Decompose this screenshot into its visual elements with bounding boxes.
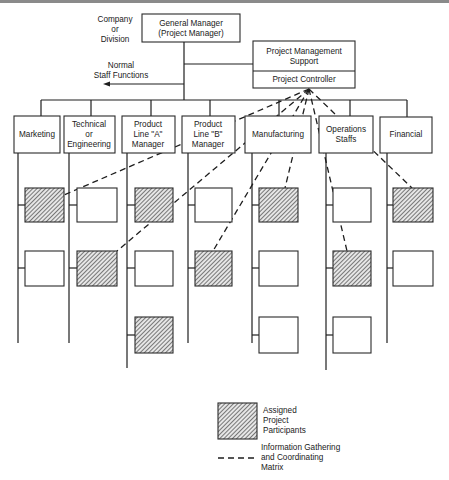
- legend: Assigned Project Participants Informatio…: [218, 403, 341, 472]
- participant-assigned: [393, 188, 433, 222]
- participant-unassigned: [333, 188, 371, 222]
- svg-text:Staffs: Staffs: [336, 135, 357, 144]
- dept-product-line-a: Product Line "A" Manager: [122, 116, 175, 153]
- svg-text:Staff Functions: Staff Functions: [94, 71, 148, 80]
- svg-text:Technical: Technical: [72, 120, 106, 129]
- participant-unassigned: [333, 317, 371, 353]
- dept-product-line-b: Product Line "B" Manager: [182, 116, 235, 153]
- participant-assigned: [135, 188, 173, 222]
- project-controller-label: Project Controller: [272, 75, 336, 84]
- participant-unassigned: [259, 251, 298, 286]
- participant-unassigned: [393, 251, 433, 286]
- dept-marketing: Marketing: [14, 116, 60, 153]
- svg-text:Line "A": Line "A": [133, 130, 162, 139]
- dept-technical-engineering: Technical or Engineering: [64, 116, 115, 153]
- participant-assigned: [25, 188, 64, 222]
- svg-text:Engineering: Engineering: [67, 140, 111, 149]
- svg-text:Normal: Normal: [108, 61, 135, 70]
- svg-text:Support: Support: [290, 57, 319, 66]
- svg-text:Operations: Operations: [326, 125, 366, 134]
- participant-assigned: [333, 251, 371, 286]
- svg-text:or: or: [85, 130, 93, 139]
- participant-assigned: [77, 251, 117, 286]
- dept-manufacturing: Manufacturing: [245, 116, 311, 153]
- participant-unassigned: [135, 251, 173, 286]
- participant-boxes: [18, 188, 433, 353]
- org-chart-diagram: Company or Division General Manager (Pro…: [0, 0, 449, 480]
- svg-text:or: or: [111, 25, 119, 34]
- participant-assigned: [259, 188, 298, 222]
- svg-text:Project: Project: [263, 416, 289, 425]
- svg-text:Manager: Manager: [192, 140, 225, 149]
- svg-text:General Manager: General Manager: [159, 19, 223, 28]
- project-management-support-box: Project Management Support Project Contr…: [253, 41, 355, 88]
- svg-text:Product: Product: [134, 120, 163, 129]
- dept-operations-staffs: Operations Staffs: [319, 116, 373, 153]
- participant-assigned: [135, 317, 173, 353]
- dept-financial: Financial: [380, 117, 432, 153]
- coordination-matrix-lines: [64, 89, 412, 251]
- legend-hatched-swatch: [218, 403, 257, 439]
- svg-text:Line "B": Line "B": [193, 130, 222, 139]
- staff-functions-arrow: Normal Staff Functions: [94, 61, 184, 87]
- svg-text:Information Gathering: Information Gathering: [261, 443, 341, 452]
- arrow-left-icon: [103, 82, 110, 87]
- participant-assigned: [195, 251, 232, 286]
- participant-unassigned: [77, 188, 117, 222]
- svg-text:Matrix: Matrix: [261, 463, 283, 472]
- svg-text:(Project Manager): (Project Manager): [158, 29, 224, 38]
- svg-text:Marketing: Marketing: [19, 130, 55, 139]
- participant-unassigned: [259, 317, 298, 353]
- department-drops: [41, 100, 407, 117]
- participant-unassigned: [25, 251, 64, 286]
- svg-text:Product: Product: [194, 120, 223, 129]
- svg-text:Manager: Manager: [132, 140, 165, 149]
- company-division-label: Company or Division: [97, 15, 133, 44]
- svg-text:Manufacturing: Manufacturing: [252, 130, 304, 139]
- svg-text:and Coordinating: and Coordinating: [261, 453, 324, 462]
- svg-text:Division: Division: [101, 35, 130, 44]
- svg-text:Project Management: Project Management: [266, 47, 342, 56]
- svg-text:Assigned: Assigned: [263, 406, 297, 415]
- participant-unassigned: [195, 188, 232, 222]
- svg-text:Participants: Participants: [263, 426, 306, 435]
- svg-text:Financial: Financial: [390, 130, 423, 139]
- general-manager-box: General Manager (Project Manager): [142, 14, 240, 42]
- svg-text:Company: Company: [97, 15, 133, 24]
